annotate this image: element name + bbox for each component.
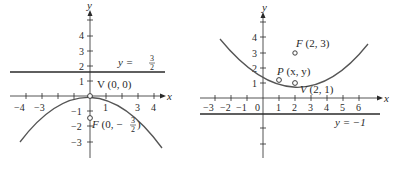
right-x-tick-label: 6: [356, 102, 361, 113]
right-focus-label: F (2, 3): [295, 37, 330, 50]
svg-text:3: 3: [131, 116, 135, 125]
left-y-tick-label: 3: [79, 46, 84, 57]
parabola-figures: x y −4 −3 1 3 4: [0, 0, 394, 180]
right-y-tick-label: 1: [252, 78, 257, 89]
left-x-axis-label: x: [166, 90, 172, 102]
right-x-tick-label: 5: [340, 102, 345, 113]
right-y-axis-label: y: [261, 1, 267, 13]
right-directrix-label: y = −1: [334, 116, 366, 128]
left-graph: x y −4 −3 1 3 4: [10, 0, 172, 158]
right-y-tick-label: 4: [252, 32, 257, 43]
left-x-tick-label: −4: [14, 102, 25, 113]
left-y-tick-label: 1: [79, 76, 84, 87]
right-parabola-curve: [220, 39, 368, 87]
left-y-tick-label: 2: [79, 61, 84, 72]
left-y-tick-label: −1: [71, 106, 82, 117]
left-y-axis-label: y: [86, 0, 92, 11]
svg-text:3: 3: [150, 54, 154, 63]
left-x-tick-label: 4: [151, 102, 156, 113]
left-focus-label: F (0, − 3 2 ): [91, 116, 141, 134]
right-focus-point: [293, 51, 297, 55]
left-vertex-point: [88, 94, 93, 99]
right-x-tick-label: −3: [203, 102, 214, 113]
right-x-tick-label: 1: [276, 102, 281, 113]
right-x-tick-label: 2: [292, 102, 297, 113]
svg-text:F (0, −: F (0, −: [91, 118, 122, 131]
right-x-tick-label: 0: [255, 102, 260, 113]
right-x-tick-label: 4: [324, 102, 329, 113]
left-directrix-label: y = 3 2: [117, 54, 155, 72]
left-x-arrow-icon: [160, 94, 166, 99]
left-vertex-label: V (0, 0): [97, 78, 132, 91]
left-x-tick-label: 3: [135, 102, 140, 113]
right-x-tick-label: 3: [308, 102, 313, 113]
left-y-tick-label: −3: [71, 137, 82, 148]
left-x-tick-label: −3: [34, 102, 45, 113]
right-point-p: [277, 78, 282, 83]
svg-text:y =: y =: [117, 56, 133, 68]
right-vertex-point: [293, 81, 298, 86]
right-y-tick-label: 3: [252, 48, 257, 59]
left-y-tick-label: −2: [71, 121, 82, 132]
left-y-tick-label: 4: [79, 30, 84, 41]
svg-text:2: 2: [131, 125, 135, 134]
svg-text:): ): [137, 118, 141, 131]
left-x-tick-label: 1: [103, 102, 108, 113]
right-x-tick-label: −1: [236, 102, 247, 113]
svg-text:2: 2: [150, 63, 154, 72]
right-point-p-label: P (x, y): [276, 65, 311, 78]
right-x-axis-label: x: [383, 92, 389, 104]
right-graph: x y −3 −2 −1 0 1 2 3 4 5 6: [200, 1, 389, 158]
right-vertex-label: V (2, 1): [300, 83, 334, 96]
right-x-tick-label: −2: [220, 102, 231, 113]
right-x-arrow-icon: [377, 96, 383, 101]
